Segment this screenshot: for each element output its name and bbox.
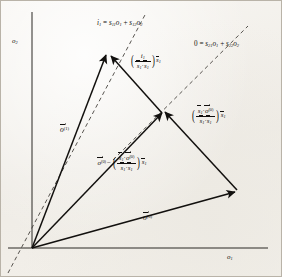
vector-label-o0: o(0) <box>143 214 152 222</box>
frac-right-num-right-sup: (0) <box>208 107 213 112</box>
frac-mid-tail: s <box>142 159 145 166</box>
paren-close-right: ) <box>216 110 219 121</box>
frac-right-den-right-sub: 1 <box>209 120 211 125</box>
constraint-line-1 <box>8 13 146 273</box>
fraction-right: s1·o(0) s1·s1 <box>196 107 216 125</box>
residual-vector-arrow <box>32 113 162 248</box>
frac-right-num-left: s <box>198 107 201 115</box>
eq2-equals: = <box>199 40 203 48</box>
residual-minus: − <box>106 160 112 167</box>
vector-label-o0-sup: (0) <box>147 214 152 219</box>
paren-open-right: ( <box>192 110 195 121</box>
frac-top-tail-sub: 1 <box>159 59 161 64</box>
vector-label-o0-symbol: o <box>143 214 147 222</box>
eq1-equals: = <box>103 19 107 27</box>
vector-o1-arrow <box>32 55 106 248</box>
frac-right-tail: s <box>221 112 224 119</box>
constraint-equation-2: 0 = s21o1 + s22o2 <box>194 41 239 48</box>
frac-right-tail-sub: 1 <box>223 114 225 119</box>
figure-border <box>1 1 282 277</box>
paren-open-top: ( <box>131 55 134 66</box>
y-axis-label-sub: 2 <box>16 40 18 45</box>
vector-o0-arrow <box>32 192 235 248</box>
frac-right-den-right: s <box>207 117 210 125</box>
eq1-v2-sub: 2 <box>140 22 142 27</box>
x-axis-label: o1 <box>227 254 233 261</box>
expression-top-right: ( i1 s1·s1 ) s1 <box>130 52 161 70</box>
frac-mid-num-left: s <box>119 154 122 162</box>
eq2-plus: + <box>220 40 224 48</box>
fraction-residual: s1·o(0) s1·s1 <box>117 154 137 172</box>
eq2-lhs: 0 <box>194 40 198 48</box>
frac-top-num-sub: 1 <box>143 55 145 60</box>
residual-lead: o <box>98 160 102 167</box>
frac-mid-den-right-sub: 1 <box>130 167 132 172</box>
x-axis-label-sub: 1 <box>231 256 233 261</box>
expression-residual: o(0) − ( s1·o(0) s1·s1 ) s1 <box>97 154 147 172</box>
frac-right-num-right: o <box>205 107 209 115</box>
frac-top-den-left: s <box>137 62 140 70</box>
frac-mid-num-right: o <box>126 154 130 162</box>
paren-open-mid: ( <box>113 157 116 168</box>
frac-mid-tail-sub: 1 <box>144 161 146 166</box>
eq1-plus: + <box>123 19 127 27</box>
frac-top-den-right: s <box>144 62 147 70</box>
eq2-v2-sub: 2 <box>237 43 239 48</box>
vector-label-o1: o(1) <box>60 126 69 134</box>
diagram-canvas <box>0 0 282 277</box>
paren-close-mid: ) <box>137 157 140 168</box>
vector-projection-figure: o2 o1 i1 = s11o1 + s12o2 0 = s21o1 + s22… <box>0 0 282 277</box>
vector-label-o1-symbol: o <box>60 126 64 134</box>
frac-mid-den-left: s <box>120 164 123 172</box>
eq2-v1-sub: 1 <box>216 43 218 48</box>
constraint-equation-1: i1 = s11o1 + s12o2 <box>97 20 142 27</box>
y-axis-label: o2 <box>12 38 18 45</box>
eq1-v1-sub: 1 <box>119 22 121 27</box>
frac-mid-den-right: s <box>128 164 131 172</box>
frac-top-tail: s <box>156 57 159 64</box>
frac-right-den-left: s <box>199 117 202 125</box>
paren-close-top: ) <box>152 55 155 66</box>
frac-top-den-right-sub: 1 <box>147 65 149 70</box>
frac-mid-num-right-sup: (0) <box>129 154 134 159</box>
expression-right-side: ( s1·o(0) s1·s1 ) s1 <box>191 107 226 125</box>
vector-label-o1-sup: (1) <box>64 126 69 131</box>
eq1-lhs-sub: 1 <box>99 22 101 27</box>
fraction-top: i1 s1·s1 <box>135 52 151 70</box>
